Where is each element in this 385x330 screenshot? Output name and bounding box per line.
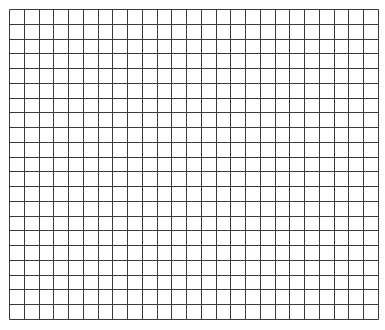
grid-cell[interactable]	[24, 113, 39, 128]
grid-cell[interactable]	[201, 290, 216, 305]
grid-cell[interactable]	[10, 246, 25, 261]
grid-cell[interactable]	[113, 24, 128, 39]
grid-cell[interactable]	[54, 24, 69, 39]
grid-cell[interactable]	[260, 172, 275, 187]
grid-cell[interactable]	[305, 201, 320, 216]
grid-cell[interactable]	[201, 231, 216, 246]
grid-cell[interactable]	[172, 54, 187, 69]
grid-cell[interactable]	[10, 187, 25, 202]
grid-cell[interactable]	[39, 201, 54, 216]
grid-cell[interactable]	[246, 201, 261, 216]
grid-cell[interactable]	[187, 172, 202, 187]
grid-cell[interactable]	[83, 260, 98, 275]
grid-cell[interactable]	[142, 98, 157, 113]
grid-cell[interactable]	[54, 39, 69, 54]
grid-cell[interactable]	[128, 172, 143, 187]
grid-cell[interactable]	[69, 113, 84, 128]
grid-cell[interactable]	[187, 10, 202, 25]
grid-cell[interactable]	[172, 231, 187, 246]
grid-cell[interactable]	[128, 54, 143, 69]
grid-cell[interactable]	[319, 142, 334, 157]
grid-cell[interactable]	[201, 260, 216, 275]
grid-cell[interactable]	[83, 83, 98, 98]
grid-cell[interactable]	[83, 305, 98, 320]
grid-cell[interactable]	[364, 98, 379, 113]
grid-cell[interactable]	[216, 10, 231, 25]
grid-cell[interactable]	[305, 83, 320, 98]
grid-cell[interactable]	[290, 172, 305, 187]
grid-cell[interactable]	[128, 39, 143, 54]
grid-cell[interactable]	[201, 113, 216, 128]
grid-cell[interactable]	[142, 24, 157, 39]
grid-cell[interactable]	[364, 216, 379, 231]
grid-cell[interactable]	[319, 83, 334, 98]
grid-cell[interactable]	[305, 275, 320, 290]
grid-cell[interactable]	[157, 69, 172, 84]
grid-cell[interactable]	[187, 98, 202, 113]
grid-cell[interactable]	[83, 201, 98, 216]
grid-cell[interactable]	[54, 260, 69, 275]
grid-cell[interactable]	[349, 275, 364, 290]
grid-cell[interactable]	[69, 201, 84, 216]
grid-cell[interactable]	[231, 24, 246, 39]
grid-cell[interactable]	[172, 246, 187, 261]
grid-cell[interactable]	[305, 157, 320, 172]
grid-cell[interactable]	[275, 113, 290, 128]
grid-cell[interactable]	[364, 275, 379, 290]
grid-cell[interactable]	[364, 187, 379, 202]
grid-cell[interactable]	[157, 83, 172, 98]
grid-cell[interactable]	[231, 142, 246, 157]
grid-cell[interactable]	[98, 231, 113, 246]
grid-cell[interactable]	[290, 275, 305, 290]
grid-cell[interactable]	[98, 98, 113, 113]
grid-cell[interactable]	[24, 98, 39, 113]
grid-cell[interactable]	[83, 157, 98, 172]
grid-cell[interactable]	[83, 10, 98, 25]
grid-cell[interactable]	[187, 201, 202, 216]
grid-cell[interactable]	[319, 275, 334, 290]
grid-cell[interactable]	[172, 113, 187, 128]
grid-cell[interactable]	[39, 98, 54, 113]
grid-cell[interactable]	[113, 83, 128, 98]
grid-cell[interactable]	[216, 201, 231, 216]
grid-cell[interactable]	[201, 98, 216, 113]
grid-cell[interactable]	[113, 290, 128, 305]
grid-cell[interactable]	[319, 246, 334, 261]
grid-cell[interactable]	[349, 39, 364, 54]
grid-cell[interactable]	[246, 305, 261, 320]
grid-cell[interactable]	[290, 39, 305, 54]
grid-cell[interactable]	[349, 246, 364, 261]
grid-cell[interactable]	[113, 157, 128, 172]
grid-cell[interactable]	[334, 231, 349, 246]
grid-cell[interactable]	[172, 142, 187, 157]
grid-cell[interactable]	[231, 246, 246, 261]
grid-cell[interactable]	[128, 290, 143, 305]
grid-cell[interactable]	[172, 305, 187, 320]
grid-cell[interactable]	[305, 216, 320, 231]
grid-cell[interactable]	[24, 246, 39, 261]
grid-cell[interactable]	[364, 260, 379, 275]
grid-cell[interactable]	[319, 305, 334, 320]
grid-cell[interactable]	[157, 305, 172, 320]
grid-cell[interactable]	[69, 305, 84, 320]
grid-cell[interactable]	[113, 39, 128, 54]
grid-cell[interactable]	[364, 157, 379, 172]
grid-cell[interactable]	[201, 54, 216, 69]
grid-cell[interactable]	[128, 157, 143, 172]
grid-cell[interactable]	[142, 128, 157, 143]
grid-cell[interactable]	[216, 157, 231, 172]
grid-cell[interactable]	[349, 10, 364, 25]
grid-cell[interactable]	[260, 128, 275, 143]
grid-cell[interactable]	[128, 216, 143, 231]
grid-cell[interactable]	[98, 216, 113, 231]
grid-cell[interactable]	[349, 98, 364, 113]
grid-cell[interactable]	[275, 83, 290, 98]
grid-cell[interactable]	[128, 260, 143, 275]
grid-cell[interactable]	[113, 187, 128, 202]
grid-cell[interactable]	[10, 142, 25, 157]
grid-cell[interactable]	[246, 142, 261, 157]
grid-cell[interactable]	[39, 24, 54, 39]
grid-cell[interactable]	[364, 54, 379, 69]
grid-cell[interactable]	[24, 69, 39, 84]
grid-cell[interactable]	[157, 246, 172, 261]
